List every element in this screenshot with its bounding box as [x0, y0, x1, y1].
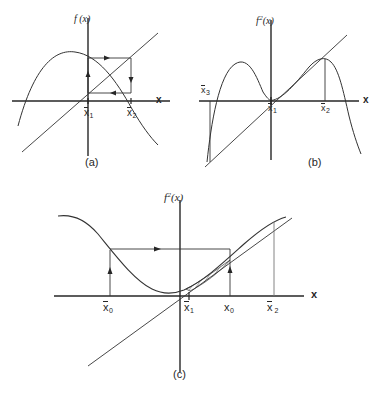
y-axis-label-a: f (x) [74, 14, 90, 24]
tick-label-x1-a: x1 [84, 108, 93, 119]
x-axis-label-b: x [363, 95, 369, 105]
tick-label-x2bar-c: x2 [267, 302, 278, 314]
tick-label-x2-b: x2 [321, 104, 330, 114]
diagonal-line-c [88, 218, 292, 366]
panel-caption-b: (b) [308, 156, 321, 168]
x-axis-label-a: x [156, 95, 162, 105]
x-axis-label-c: x [311, 289, 317, 300]
tick-label-x2-a: x2 [127, 108, 136, 119]
tick-label-x1-c: x1 [184, 302, 194, 314]
panel-a-plot [0, 4, 191, 176]
arrow-up-x0bar-c [108, 267, 113, 274]
tick-label-x1-b: x1 [268, 104, 277, 114]
arrow-down-a [129, 77, 134, 83]
arrow-up-x0-c [228, 266, 233, 273]
y-axis-label-c: f2(x) [164, 192, 183, 203]
arrow-right-a [104, 56, 110, 61]
figure-root: f (x) x x1 x2 (a) f2(x) x x3 x1 x2 [0, 0, 382, 398]
panel-b: f2(x) x x3 x1 x2 (b) [191, 4, 382, 176]
panel-b-plot [191, 4, 382, 176]
panel-a: f (x) x x1 x2 (a) [0, 4, 191, 176]
curve-f2-c [58, 216, 286, 294]
arrow-up-a [86, 71, 91, 77]
panel-caption-a: (a) [85, 156, 98, 168]
arrow-right-c [154, 247, 161, 252]
tick-label-x0bar-c: x0 [103, 302, 113, 314]
panel-c-plot [34, 176, 364, 398]
diagonal-line-a [22, 33, 158, 152]
panel-c: f2(x) x x0 x1 x0 x2 (c) [34, 176, 364, 398]
tick-label-x3-b: x3 [201, 86, 210, 96]
arrow-left-a [110, 91, 116, 96]
tick-label-x0-c: x0 [224, 302, 234, 314]
panel-caption-c: (c) [173, 368, 186, 380]
curve-f2-b [207, 59, 361, 162]
y-axis-label-b: f2(x) [256, 15, 274, 26]
